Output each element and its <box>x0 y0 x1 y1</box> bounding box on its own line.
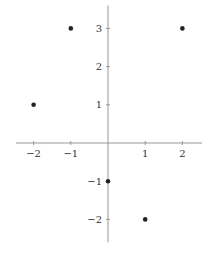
data-point <box>69 26 74 31</box>
data-point <box>180 26 185 31</box>
data-point <box>143 217 148 222</box>
y-tick-label: 2 <box>96 61 102 72</box>
ticks: −2−112321−1−2 <box>26 23 185 225</box>
data-point <box>106 179 111 184</box>
y-tick-label: 3 <box>96 23 102 34</box>
x-tick-label: 2 <box>179 148 185 159</box>
y-tick-label: 1 <box>96 99 102 110</box>
axes <box>16 5 202 242</box>
y-tick-label: −2 <box>87 214 102 225</box>
x-tick-label: −2 <box>26 148 41 159</box>
x-tick-label: −1 <box>63 148 78 159</box>
x-tick-label: 1 <box>142 148 148 159</box>
y-tick-label: −1 <box>87 176 102 187</box>
scatter-chart: −2−112321−1−2 <box>0 0 218 255</box>
data-point <box>31 103 36 108</box>
